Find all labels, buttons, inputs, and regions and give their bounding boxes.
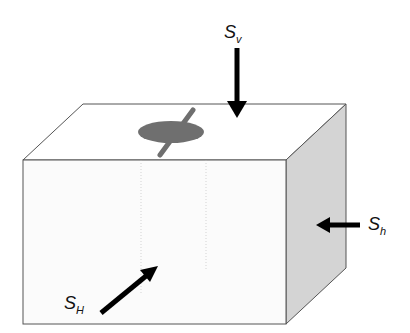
block-front-face [23, 160, 286, 324]
sh-label: Sh [368, 214, 386, 237]
sv-label: Sv [224, 22, 243, 45]
stress-block-diagram: Sv Sh SH [0, 0, 410, 333]
